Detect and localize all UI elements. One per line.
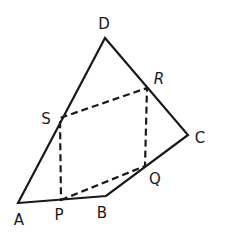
geometry-diagram: A B C D P Q R S bbox=[0, 0, 232, 244]
label-c: C bbox=[195, 129, 205, 147]
inner-parallelogram-pqrs bbox=[60, 88, 147, 200]
label-d: D bbox=[98, 15, 110, 33]
label-a: A bbox=[14, 211, 25, 229]
label-s: S bbox=[41, 110, 51, 128]
label-p: P bbox=[54, 206, 63, 224]
label-r: R bbox=[154, 70, 164, 88]
label-q: Q bbox=[149, 170, 161, 188]
label-b: B bbox=[97, 204, 107, 222]
